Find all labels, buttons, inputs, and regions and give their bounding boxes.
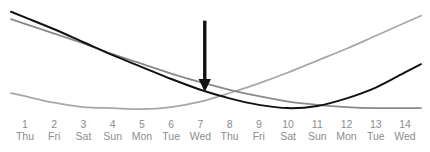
x-tick-weekday: Wed [385,130,425,142]
down-arrow-annotation [199,21,211,92]
x-tick-14: 14Wed [385,118,425,142]
x-tick-number: 14 [385,118,425,130]
x-axis-tick-labels: 1Thu2Fri3Sat4Sun5Mon6Tue7Wed8Thu9Fri10Sa… [0,118,430,152]
series-line-dark-curve [11,12,421,108]
chart-figure: 1Thu2Fri3Sat4Sun5Mon6Tue7Wed8Thu9Fri10Sa… [0,0,430,152]
series-layer [11,12,421,110]
